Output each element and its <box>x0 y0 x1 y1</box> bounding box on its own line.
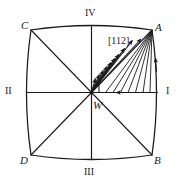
axis-label-II: II <box>5 86 12 96</box>
axis-label-IV: IV <box>85 8 96 18</box>
center-label-W: W <box>93 100 102 111</box>
diagonal-WD <box>31 93 92 156</box>
corner-label-C: C <box>21 20 28 31</box>
diagonal-WC <box>31 30 92 93</box>
axis-label-I: I <box>166 86 169 96</box>
corner-label-B: B <box>154 155 161 166</box>
corner-label-D: D <box>20 155 28 166</box>
corner-label-A: A <box>155 22 162 33</box>
fan-ray-9 <box>92 40 133 92</box>
center-point-W <box>90 91 94 95</box>
axis-label-III: III <box>84 167 94 177</box>
direction-label-112: [112] <box>108 36 129 46</box>
figure-container: C A D B IV II I III W [112] <box>0 0 178 185</box>
